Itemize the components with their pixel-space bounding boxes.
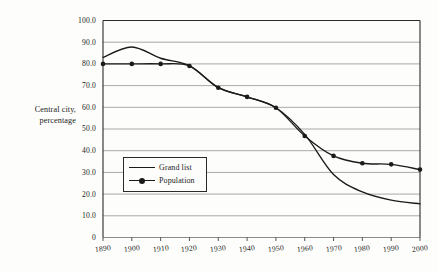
y-tick-label: 10.0 [56,211,96,220]
chart-figure: Central city, percentage 100.090.080.070… [0,0,438,272]
series-markers-population [101,62,423,172]
legend-label-population: Population [159,176,195,185]
data-point-marker [389,162,394,167]
data-point-marker [101,62,106,67]
data-point-marker [360,161,365,166]
y-tick-label: 40.0 [56,146,96,155]
y-tick-label: 80.0 [56,59,96,68]
gridlines [103,42,420,237]
data-point-marker [245,95,250,100]
chart-legend: Grand list Population [123,157,207,192]
legend-item-population: Population [129,174,195,187]
legend-line-marker-icon [129,175,155,186]
y-tick-label: 0 [56,233,96,242]
data-point-marker [158,62,163,67]
data-point-marker [418,167,423,172]
y-tick-label: 60.0 [56,103,96,112]
data-point-marker [130,62,135,67]
legend-line-icon [129,162,155,173]
data-point-marker [331,154,336,159]
y-tick-label: 30.0 [56,168,96,177]
data-point-marker [216,85,221,90]
legend-label-grand-list: Grand list [159,163,192,172]
series-line-population [103,64,420,170]
y-tick-label: 90.0 [56,38,96,47]
data-point-marker [302,134,307,139]
y-tick-label: 100.0 [56,16,96,25]
legend-item-grand-list: Grand list [129,161,192,174]
y-tick-label: 20.0 [56,190,96,199]
data-point-marker [274,105,279,110]
y-tick-label: 70.0 [56,81,96,90]
y-tick-label: 50.0 [56,124,96,133]
data-point-marker [187,64,192,69]
